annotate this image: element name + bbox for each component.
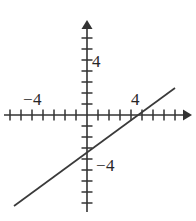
graph-figure: 4 −4 4 −4: [0, 0, 196, 221]
y-axis-tick-label-negative-4: −4: [96, 157, 115, 174]
coordinate-plane: [0, 0, 196, 221]
y-axis-tick-label-4: 4: [92, 53, 101, 70]
x-axis-arrow-icon: [183, 110, 192, 121]
x-axis-tick-label-4: 4: [131, 91, 140, 108]
y-axis-arrow-icon: [82, 20, 93, 29]
x-axis-tick-label-negative-4: −4: [23, 91, 42, 108]
